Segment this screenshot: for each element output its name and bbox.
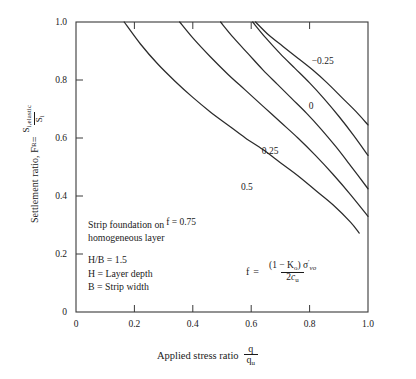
y-tick-label: 0.6 bbox=[55, 133, 67, 143]
x-tick-label: 1.0 bbox=[362, 319, 374, 329]
formula-num-vo-subscript: vo bbox=[310, 264, 317, 272]
note-line-2: homogeneous layer bbox=[88, 231, 164, 244]
y-tick-label: 0.4 bbox=[55, 191, 67, 201]
curve-label: f = 0.75 bbox=[166, 217, 196, 227]
x-fraction-numerator: q bbox=[245, 344, 256, 354]
note-line-5: B = Strip width bbox=[88, 280, 164, 293]
y-den-subscript: i bbox=[38, 115, 46, 117]
x-tick-label: 0.6 bbox=[245, 319, 257, 329]
formula-numerator: (1 − Ko) σ′vo bbox=[264, 259, 321, 272]
y-num-symbol: S bbox=[21, 127, 31, 132]
curve-label: −0.25 bbox=[312, 56, 334, 66]
formula-f-symbol: f bbox=[246, 266, 249, 277]
x-tick-label: 0.2 bbox=[128, 319, 140, 329]
curve-f-0.75 bbox=[124, 22, 359, 233]
y-tick-label: 0.2 bbox=[55, 249, 67, 259]
y-fraction-denominator: Si bbox=[34, 112, 46, 125]
y-axis-title-equals: = bbox=[29, 137, 40, 143]
y-axis-title-subscript: R bbox=[30, 142, 38, 147]
x-fraction-denominator: qu bbox=[244, 354, 259, 367]
curve-label: 0.25 bbox=[262, 146, 279, 156]
x-axis-title-text: Applied stress ratio bbox=[157, 350, 239, 361]
y-axis-title: Settlement ratio, FR = Si,elastic Si bbox=[22, 32, 46, 292]
formula-den-u-subscript: u bbox=[295, 276, 299, 284]
curve-f-0.25 bbox=[221, 22, 368, 189]
y-num-subscript: i,elastic bbox=[25, 105, 33, 127]
x-tick-label: 0 bbox=[74, 319, 79, 329]
note-line-3: H/B = 1.5 bbox=[88, 253, 164, 266]
x-axis-title: Applied stress ratio q qu bbox=[0, 344, 416, 367]
chart-canvas: 00.20.40.60.81.000.20.40.60.81.0 −0.2500… bbox=[0, 0, 416, 379]
note-line-1: Strip foundation on bbox=[88, 218, 164, 231]
y-tick-label: 0.8 bbox=[55, 75, 67, 85]
f-definition-formula: f = (1 − Ko) σ′vo 2cu bbox=[246, 259, 322, 284]
formula-num-open: (1 − K bbox=[269, 260, 294, 270]
curve-label: 0 bbox=[309, 101, 314, 111]
y-tick-label: 0 bbox=[62, 307, 67, 317]
curve-group bbox=[124, 22, 368, 233]
note-spacer bbox=[88, 244, 164, 253]
y-tick-label: 1.0 bbox=[55, 17, 67, 27]
chart-note-block: Strip foundation on homogeneous layer H/… bbox=[88, 218, 164, 293]
formula-denominator: 2cu bbox=[281, 272, 303, 284]
settlement-ratio-chart: 00.20.40.60.81.000.20.40.60.81.0 −0.2500… bbox=[0, 0, 416, 379]
y-axis-fraction: Si,elastic Si bbox=[22, 102, 45, 136]
note-line-4: H = Layer depth bbox=[88, 267, 164, 280]
x-den-subscript: u bbox=[252, 359, 256, 367]
x-tick-label: 0.8 bbox=[304, 319, 316, 329]
x-tick-label: 0.4 bbox=[187, 319, 199, 329]
curve-label: 0.5 bbox=[241, 182, 253, 192]
formula-fraction: (1 − Ko) σ′vo 2cu bbox=[264, 259, 321, 284]
y-axis-title-text: Settlement ratio, F bbox=[29, 147, 40, 223]
curve-f-0.5 bbox=[180, 22, 368, 216]
y-den-symbol: S bbox=[34, 117, 44, 122]
curve-f-0 bbox=[253, 22, 368, 155]
x-axis-fraction: q qu bbox=[244, 344, 259, 367]
y-fraction-numerator: Si,elastic bbox=[22, 102, 33, 136]
formula-num-close: ) σ bbox=[297, 260, 308, 270]
formula-equals: = bbox=[253, 266, 259, 277]
